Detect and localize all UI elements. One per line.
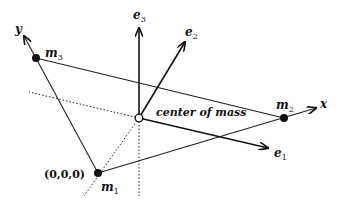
x-axis-label: x [319, 97, 328, 111]
center-of-mass-diagram: y x m3 m2 m1 (0,0,0) e3 e2 e1 center of … [0, 0, 346, 204]
y-axis-label: y [14, 22, 23, 36]
e1-vector [139, 118, 268, 148]
center-of-mass-point [135, 114, 143, 122]
mass-point-m3 [32, 54, 40, 62]
mass-point-m1 [94, 169, 102, 177]
mass-point-m2 [280, 114, 288, 122]
dotted-line-left [29, 92, 139, 118]
m1-label: m1 [101, 180, 119, 196]
origin-coord-label: (0,0,0) [44, 168, 85, 181]
m2-label: m2 [276, 98, 294, 114]
e3-label: e3 [133, 8, 146, 24]
center-of-mass-label: center of mass [156, 106, 246, 119]
e2-label: e2 [185, 25, 198, 41]
m3-label: m3 [45, 46, 63, 62]
e1-label: e1 [274, 146, 287, 162]
